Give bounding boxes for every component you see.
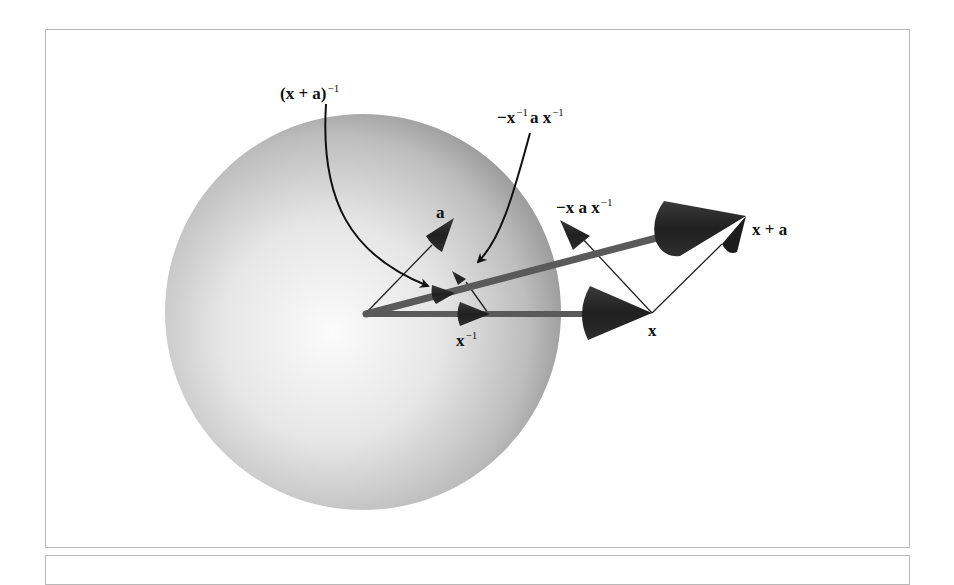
label-superscript: −1 [601, 196, 613, 208]
label-text: x + a [752, 220, 787, 239]
label-text: −x [497, 108, 515, 127]
label-x: x [648, 322, 657, 339]
label-x-plus-a: x + a [752, 221, 787, 238]
label-neg-x-a-xinv: −x a x−1 [556, 197, 612, 216]
label-x-plus-a-inverse: (x + a)−1 [280, 83, 339, 102]
x-cone-icon [582, 286, 652, 340]
label-a: a [436, 204, 445, 221]
neg-x-a-xinv-arrowhead-icon [560, 220, 590, 250]
label-superscript: −1 [328, 82, 340, 94]
label-text: a x [530, 108, 551, 127]
label-text: (x + a) [280, 84, 327, 103]
label-neg-xinv-a-xinv: −x−1a x−1 [497, 107, 564, 126]
label-text: x [648, 321, 657, 340]
label-superscript: −1 [516, 106, 528, 118]
label-x-inverse: x−1 [456, 330, 477, 349]
label-text: x [456, 331, 465, 350]
label-superscript: −1 [466, 329, 478, 341]
label-text: a [436, 203, 445, 222]
label-superscript: −1 [552, 106, 564, 118]
label-text: −x a x [556, 198, 600, 217]
